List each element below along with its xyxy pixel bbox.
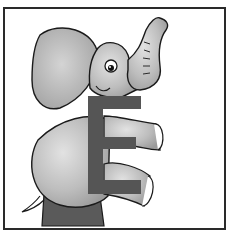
elephant-trunk (128, 18, 168, 90)
elephant-illustration (0, 0, 229, 231)
elephant-tail (22, 196, 44, 212)
elephant-eye (105, 60, 117, 72)
